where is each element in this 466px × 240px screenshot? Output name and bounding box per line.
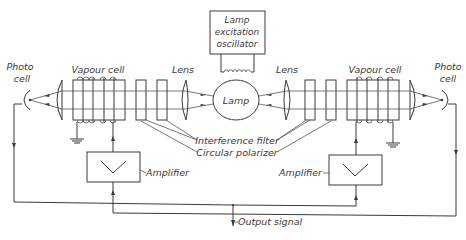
vapour-cell-right-label: Vapour cell (349, 64, 402, 75)
vapour-cell-right: Vapour cell (347, 64, 402, 123)
photo-cell-left-label-2: cell (14, 73, 31, 84)
amplifier-left: Amplifier (87, 152, 190, 182)
wiring (12, 104, 458, 226)
oscillator-label-1: Lamp (224, 15, 249, 25)
schematic-diagram: Lamp excitation oscillator Lamp (0, 0, 466, 240)
lamp-label: Lamp (223, 95, 249, 106)
ground-right-icon (386, 122, 400, 147)
lens-right-label: Lens (276, 64, 298, 75)
output-signal-label: Output signal (238, 216, 302, 227)
filters-right (305, 80, 336, 120)
amplifier-left-label: Amplifier (145, 167, 190, 178)
photo-cell-left-label-1: Photo (6, 61, 33, 72)
collector-lens-left (57, 80, 62, 120)
circular-polarizer-label: Circular polarizer (196, 147, 278, 158)
coil-icon (221, 54, 254, 72)
amplifier-right-label: Amplifier (278, 167, 323, 178)
ground-left-icon (70, 122, 84, 143)
lens-left-label: Lens (172, 64, 194, 75)
photo-cell-right: Photo cell (434, 61, 461, 110)
amplifier-right: Amplifier (278, 155, 382, 185)
vapour-cell-left: Vapour cell (72, 64, 125, 123)
photo-cell-right-label-1: Photo (434, 61, 461, 72)
vapour-cell-left-label: Vapour cell (72, 64, 125, 75)
collector-lens-right (410, 80, 415, 120)
photo-cell-right-label-2: cell (440, 73, 457, 84)
photo-cell-left: Photo cell (6, 61, 33, 110)
lamp: Lamp (213, 80, 259, 120)
oscillator-label-3: oscillator (217, 39, 259, 49)
filters-left (136, 80, 167, 120)
oscillator-label-2: excitation (215, 27, 260, 37)
oscillator-box: Lamp excitation oscillator (210, 11, 265, 54)
interference-filter-label: Interference filter (195, 135, 280, 146)
